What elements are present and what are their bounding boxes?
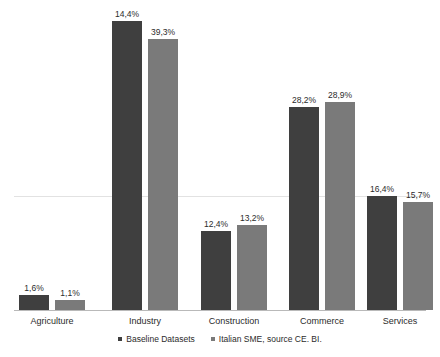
bar-agriculture-baseline[interactable] [19, 295, 49, 310]
bar-group-bars: 28,2%28,9% [281, 0, 363, 310]
legend-item[interactable]: Italian SME, source CE. BI. [211, 334, 322, 344]
legend-swatch-icon [211, 337, 215, 341]
bar-value-label: 39,3% [151, 28, 175, 37]
bar-slot: 16,4% [367, 0, 397, 310]
bar-construction-baseline[interactable] [201, 231, 231, 310]
bar-group: 16,4%15,7% [359, 0, 440, 310]
bar-slot: 1,1% [55, 0, 85, 310]
bar-group-bars: 14,4%39,3% [104, 0, 186, 310]
bar-group-bars: 12,4%13,2% [193, 0, 275, 310]
grouped-bar-chart: 1,6%1,1%14,4%39,3%12,4%13,2%28,2%28,9%16… [0, 0, 440, 357]
bar-group: 12,4%13,2% [193, 0, 275, 310]
bar-group-bars: 16,4%15,7% [359, 0, 440, 310]
legend-label: Baseline Datasets [126, 334, 195, 344]
legend-swatch-icon [118, 337, 122, 341]
bar-slot: 39,3% [148, 0, 178, 310]
bar-agriculture-sme[interactable] [55, 300, 85, 310]
bar-value-label: 15,7% [406, 191, 430, 200]
bar-value-label: 1,1% [60, 289, 79, 298]
bar-value-label: 13,2% [240, 214, 264, 223]
chart-legend: Baseline DatasetsItalian SME, source CE.… [0, 334, 440, 344]
category-label-construction: Construction [193, 316, 275, 326]
bar-commerce-sme[interactable] [325, 102, 355, 310]
bar-slot: 15,7% [403, 0, 433, 310]
category-label-industry: Industry [104, 316, 186, 326]
legend-label: Italian SME, source CE. BI. [219, 334, 322, 344]
bar-slot: 13,2% [237, 0, 267, 310]
bar-industry-sme[interactable] [148, 39, 178, 310]
bar-value-label: 14,4% [115, 10, 139, 19]
bar-services-baseline[interactable] [367, 196, 397, 310]
category-label-agriculture: Agriculture [11, 316, 93, 326]
category-label-services: Services [359, 316, 440, 326]
bar-services-sme[interactable] [403, 202, 433, 310]
bar-slot: 1,6% [19, 0, 49, 310]
bar-commerce-baseline[interactable] [289, 107, 319, 310]
bar-value-label: 1,6% [24, 284, 43, 293]
legend-item[interactable]: Baseline Datasets [118, 334, 195, 344]
bar-industry-baseline[interactable] [112, 21, 142, 310]
bar-group: 1,6%1,1% [11, 0, 93, 310]
bar-slot: 28,2% [289, 0, 319, 310]
bar-slot: 12,4% [201, 0, 231, 310]
bar-group: 28,2%28,9% [281, 0, 363, 310]
bar-value-label: 28,2% [292, 96, 316, 105]
bar-value-label: 12,4% [204, 220, 228, 229]
bar-value-label: 28,9% [328, 91, 352, 100]
bar-value-label: 16,4% [370, 185, 394, 194]
bar-slot: 14,4% [112, 0, 142, 310]
bar-group: 14,4%39,3% [104, 0, 186, 310]
bar-construction-sme[interactable] [237, 225, 267, 310]
bar-slot: 28,9% [325, 0, 355, 310]
x-axis-baseline [14, 310, 426, 311]
bar-group-bars: 1,6%1,1% [11, 0, 93, 310]
category-label-commerce: Commerce [281, 316, 363, 326]
